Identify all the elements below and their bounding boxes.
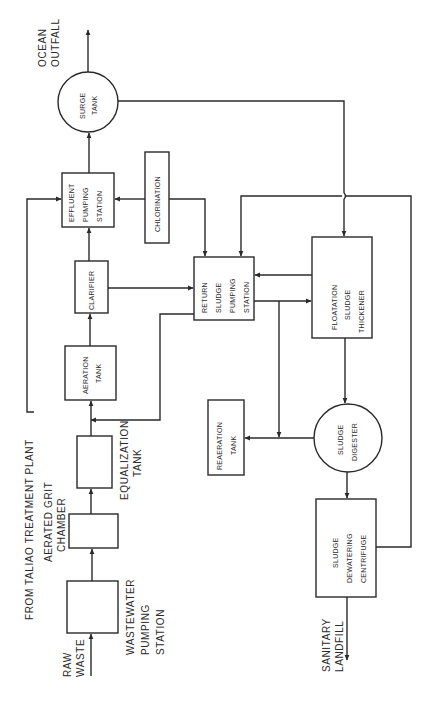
- wastewater-pumping-station-box: [67, 581, 118, 633]
- label-thickener: THICKENER: [358, 290, 365, 333]
- label-return-pumping: PUMPING: [229, 278, 236, 313]
- label-centrifuge-sludge: SLUDGE: [332, 537, 339, 568]
- label-pumping: PUMPING: [140, 604, 151, 655]
- equalization-tank-box: [77, 436, 112, 488]
- label-return: RETURN: [201, 282, 208, 313]
- label-effluent-station: STATION: [96, 191, 103, 222]
- label-equalization: EQUALIZATION: [119, 420, 130, 500]
- label-reaeration-tank: TANK: [230, 436, 237, 455]
- label-return-sludge: SLUDGE: [215, 282, 222, 313]
- label-clarifier: CLARIFIER: [88, 271, 95, 310]
- label-aeration-tank: TANK: [95, 364, 102, 383]
- label-ocean: OCEAN: [37, 28, 48, 67]
- label-aeration: AERATION: [82, 356, 89, 394]
- label-dewatering: DEWATERING: [346, 533, 353, 583]
- label-floatation-sludge: SLUDGE: [344, 289, 351, 320]
- title-from-taliao: FROM TALIAO TREATMENT PLANT: [24, 439, 35, 620]
- label-return-station: STATION: [243, 282, 250, 313]
- label-surge-tank: TANK: [91, 96, 98, 115]
- label-digester-sludge: SLUDGE: [337, 424, 344, 455]
- surge-tank-circle: [58, 72, 118, 132]
- label-wastewater: WASTEWATER: [125, 579, 136, 655]
- label-equalization-tank: TANK: [132, 449, 143, 477]
- sludge-digester-circle: [314, 404, 382, 472]
- reaeration-tank-box: [208, 400, 244, 475]
- label-floatation: FLOATATION: [331, 285, 338, 330]
- label-surge: SURGE: [79, 93, 86, 119]
- label-chamber: CHAMBER: [56, 498, 67, 552]
- label-effluent-pumping: PUMPING: [82, 187, 89, 222]
- label-outfall: OUTFALL: [50, 18, 61, 67]
- label-centrifuge: CENTRIFUGE: [360, 534, 367, 583]
- label-sanitary: SANITARY: [321, 618, 332, 672]
- aeration-tank-box: [65, 346, 116, 400]
- process-flow-diagram: FROM TALIAO TREATMENT PLANT RAW WASTE WA…: [0, 0, 437, 716]
- grit-chamber-box: [69, 514, 118, 548]
- label-station: STATION: [155, 609, 166, 655]
- diagram-svg: FROM TALIAO TREATMENT PLANT RAW WASTE WA…: [0, 0, 437, 716]
- arrow-taliao-to-effluent: [27, 199, 61, 412]
- label-aerated-grit: AERATED GRIT: [43, 482, 54, 562]
- label-chlorination: CHLORINATION: [154, 176, 161, 232]
- label-raw: RAW: [62, 652, 73, 677]
- label-effluent: EFFLUENT: [68, 183, 75, 222]
- label-reaeration: REAERATION: [216, 422, 223, 470]
- line-crossover-hop: [344, 193, 346, 199]
- label-waste: WASTE: [75, 639, 86, 677]
- label-landfill: LANDFILL: [334, 621, 345, 673]
- arrow-chlorination-to-return: [169, 199, 205, 256]
- label-digester: DIGESTER: [351, 423, 358, 461]
